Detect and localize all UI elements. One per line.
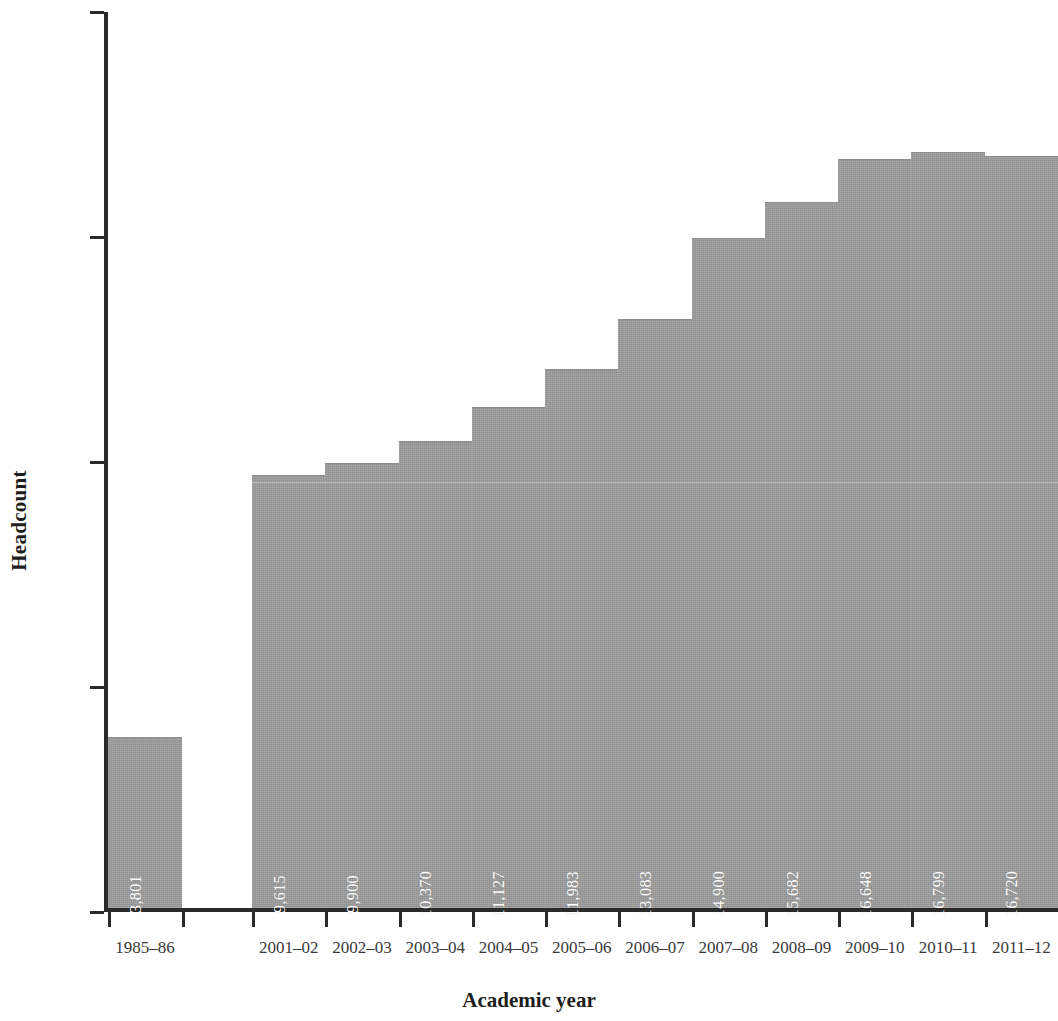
x-axis-tick (545, 910, 548, 927)
x-axis-tick (838, 910, 841, 927)
x-axis-tick (108, 910, 111, 927)
bar-value-label: 11,127 (490, 871, 508, 917)
x-axis-tick-label: 2005–06 (552, 938, 612, 958)
bar-value-label: 16,648 (857, 871, 875, 917)
bar-value-label: 3,801 (127, 875, 145, 913)
plot-area: 05,00010,00015,00020,000 3,8019,6159,900… (104, 8, 1058, 910)
x-axis-tick (472, 910, 475, 927)
x-axis-tick (692, 910, 695, 927)
x-axis-tick-label: 1985–86 (115, 938, 175, 958)
x-axis-tick-label: 2009–10 (845, 938, 905, 958)
bar: 13,083 (618, 319, 691, 908)
x-axis-tick (399, 910, 402, 927)
bar: 11,983 (545, 369, 618, 908)
bar-chart: Headcount 05,00010,00015,00020,000 3,801… (0, 0, 1058, 1021)
x-axis-tick-label: 2006–07 (625, 938, 685, 958)
y-axis-tick (90, 461, 104, 464)
bar-value-label: 14,900 (710, 871, 728, 917)
y-axis-tick (90, 236, 104, 239)
bar: 11,127 (472, 407, 545, 908)
x-axis-tick (985, 910, 988, 927)
x-axis-tick (252, 910, 255, 927)
bar: 16,799 (911, 152, 984, 908)
y-axis-title-text: Headcount (7, 470, 32, 571)
x-axis-tick (182, 910, 185, 927)
bar: 15,682 (765, 202, 838, 908)
bar-value-label: 9,615 (271, 875, 289, 913)
y-axis-title: Headcount (0, 380, 38, 660)
x-axis-tick-label: 2004–05 (479, 938, 539, 958)
bar: 16,720 (985, 156, 1058, 908)
bar: 9,900 (325, 463, 398, 909)
x-axis-tick-label: 2010–11 (919, 938, 978, 958)
bar: 16,648 (838, 159, 911, 908)
bar-value-label: 13,083 (637, 871, 655, 917)
y-axis-tick (90, 911, 104, 914)
bar-value-label: 11,983 (564, 871, 582, 917)
x-axis-tick-label: 2011–12 (992, 938, 1051, 958)
x-axis-tick (618, 910, 621, 927)
bar-value-label: 16,799 (930, 871, 948, 917)
y-axis-tick (90, 11, 104, 14)
x-axis-tick-label: 2007–08 (699, 938, 759, 958)
bar-value-label: 16,720 (1003, 871, 1021, 917)
y-axis-tick (90, 686, 104, 689)
bar: 14,900 (692, 238, 765, 909)
x-axis-title: Academic year (0, 988, 1058, 1013)
bar: 10,370 (399, 441, 472, 908)
x-axis-tick-label: 2003–04 (405, 938, 465, 958)
x-axis-tick (765, 910, 768, 927)
x-axis-tick-label: 2008–09 (772, 938, 832, 958)
bar: 3,801 (108, 737, 182, 908)
x-axis-tick-label: 2001–02 (259, 938, 319, 958)
bar-value-label: 9,900 (344, 875, 362, 913)
bar-value-label: 15,682 (784, 871, 802, 917)
x-axis-tick-label: 2002–03 (332, 938, 392, 958)
x-axis-tick (911, 910, 914, 927)
bar-value-label: 10,370 (417, 871, 435, 917)
x-axis-tick (325, 910, 328, 927)
bar: 9,615 (252, 475, 325, 908)
